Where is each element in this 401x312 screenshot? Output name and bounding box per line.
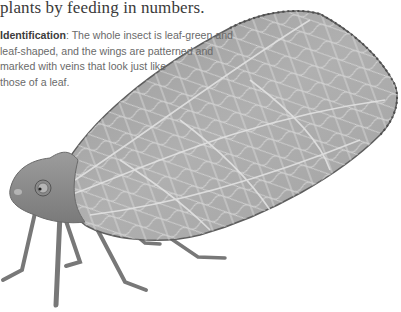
identification-line-1: Identification: The whole insect is leaf… — [0, 28, 240, 44]
identification-line-4: those of a leaf. — [0, 75, 240, 91]
identification-paragraph: Identification: The whole insect is leaf… — [0, 28, 240, 90]
document-page: plants by feeding in numbers. Identifica… — [0, 0, 401, 312]
eye — [35, 180, 51, 196]
identification-line-3: marked with veins that look just like — [0, 59, 240, 75]
identification-label: Identification — [0, 29, 66, 41]
identification-text-1: The whole insect is leaf-green and — [69, 29, 233, 41]
identification-line-2: leaf-shaped, and the wings are patterned… — [0, 44, 240, 60]
